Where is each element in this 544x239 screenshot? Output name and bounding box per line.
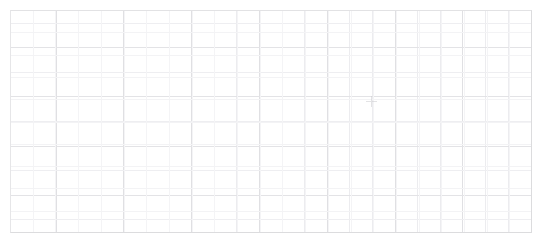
- grid-cell[interactable]: [373, 220, 396, 232]
- grid-cell[interactable]: [327, 72, 350, 97]
- grid-cell[interactable]: [327, 11, 350, 23]
- grid-cell[interactable]: [327, 171, 350, 196]
- grid-cell[interactable]: [282, 146, 305, 171]
- grid-cell[interactable]: [34, 11, 57, 23]
- grid-cell[interactable]: [79, 97, 102, 122]
- table-row[interactable]: [11, 48, 531, 73]
- grid-cell[interactable]: [56, 195, 79, 220]
- grid-cell[interactable]: [124, 97, 147, 122]
- grid-cell[interactable]: [169, 146, 192, 171]
- table-row[interactable]: [11, 146, 531, 171]
- grid-cell[interactable]: [373, 97, 396, 122]
- grid-cell[interactable]: [440, 72, 463, 97]
- grid-cell[interactable]: [79, 220, 102, 232]
- grid-cell[interactable]: [101, 121, 124, 146]
- grid-cell[interactable]: [34, 195, 57, 220]
- grid-cell[interactable]: [395, 72, 418, 97]
- grid-cell[interactable]: [169, 97, 192, 122]
- grid-cell[interactable]: [440, 23, 463, 48]
- table-row[interactable]: [11, 23, 531, 48]
- grid-cell[interactable]: [214, 97, 237, 122]
- grid-cell[interactable]: [169, 195, 192, 220]
- grid-cell[interactable]: [440, 195, 463, 220]
- grid-cell[interactable]: [11, 220, 34, 232]
- grid-cell[interactable]: [282, 72, 305, 97]
- grid-cell[interactable]: [305, 171, 328, 196]
- grid-cell[interactable]: [418, 220, 441, 232]
- grid-cell[interactable]: [147, 195, 170, 220]
- grid-cell[interactable]: [305, 72, 328, 97]
- grid-cell[interactable]: [327, 220, 350, 232]
- grid-cell[interactable]: [11, 97, 34, 122]
- grid-cell[interactable]: [508, 220, 531, 232]
- grid-cell[interactable]: [463, 195, 486, 220]
- grid-cell[interactable]: [327, 97, 350, 122]
- grid-cell[interactable]: [485, 23, 508, 48]
- grid-cell[interactable]: [169, 171, 192, 196]
- grid-cell[interactable]: [418, 171, 441, 196]
- grid-cell[interactable]: [373, 48, 396, 73]
- grid-cell[interactable]: [282, 171, 305, 196]
- grid-cell[interactable]: [260, 171, 283, 196]
- grid-cell[interactable]: [327, 195, 350, 220]
- grid-cell[interactable]: [395, 121, 418, 146]
- grid-cell[interactable]: [34, 121, 57, 146]
- grid-cell[interactable]: [124, 171, 147, 196]
- grid-cell[interactable]: [282, 220, 305, 232]
- grid-cell[interactable]: [508, 48, 531, 73]
- grid-cell[interactable]: [463, 171, 486, 196]
- grid-cell[interactable]: [169, 72, 192, 97]
- grid-cell[interactable]: [305, 23, 328, 48]
- grid-cell[interactable]: [147, 23, 170, 48]
- grid-cell[interactable]: [237, 121, 260, 146]
- grid-cell[interactable]: [440, 11, 463, 23]
- grid-cell[interactable]: [305, 48, 328, 73]
- grid-cell[interactable]: [282, 97, 305, 122]
- grid-cell[interactable]: [11, 72, 34, 97]
- grid-cell[interactable]: [440, 121, 463, 146]
- grid-cell[interactable]: [395, 97, 418, 122]
- grid-cell[interactable]: [327, 146, 350, 171]
- grid-cell[interactable]: [124, 23, 147, 48]
- grid-cell[interactable]: [34, 220, 57, 232]
- grid-cell[interactable]: [237, 171, 260, 196]
- grid-cell[interactable]: [508, 72, 531, 97]
- grid-cell[interactable]: [485, 97, 508, 122]
- grid-cell[interactable]: [214, 11, 237, 23]
- grid-cell[interactable]: [418, 195, 441, 220]
- grid-cell[interactable]: [147, 48, 170, 73]
- grid-cell[interactable]: [282, 121, 305, 146]
- grid-cell[interactable]: [305, 121, 328, 146]
- grid-cell[interactable]: [463, 121, 486, 146]
- grid-cell[interactable]: [260, 121, 283, 146]
- grid-cell[interactable]: [485, 11, 508, 23]
- grid-cell[interactable]: [169, 220, 192, 232]
- grid-cell[interactable]: [260, 146, 283, 171]
- grid-cell[interactable]: [101, 48, 124, 73]
- grid-cell[interactable]: [305, 97, 328, 122]
- grid-cell[interactable]: [147, 97, 170, 122]
- grid-cell[interactable]: [282, 23, 305, 48]
- grid-cell[interactable]: [237, 97, 260, 122]
- grid-cell[interactable]: [101, 195, 124, 220]
- grid-cell[interactable]: [350, 72, 373, 97]
- grid-cell[interactable]: [169, 48, 192, 73]
- grid-cell[interactable]: [260, 97, 283, 122]
- grid-cell[interactable]: [124, 195, 147, 220]
- grid-cell[interactable]: [485, 171, 508, 196]
- grid-cell[interactable]: [440, 146, 463, 171]
- grid-cell[interactable]: [463, 11, 486, 23]
- grid-cell[interactable]: [237, 146, 260, 171]
- grid-cell[interactable]: [373, 23, 396, 48]
- grid-cell[interactable]: [11, 121, 34, 146]
- grid-cell[interactable]: [11, 48, 34, 73]
- grid-cell[interactable]: [373, 121, 396, 146]
- grid-cell[interactable]: [327, 48, 350, 73]
- grid-cell[interactable]: [79, 195, 102, 220]
- table-row[interactable]: [11, 97, 531, 122]
- grid-cell[interactable]: [305, 146, 328, 171]
- grid-cell[interactable]: [147, 121, 170, 146]
- grid-cell[interactable]: [79, 121, 102, 146]
- grid-cell[interactable]: [56, 11, 79, 23]
- grid-cell[interactable]: [260, 220, 283, 232]
